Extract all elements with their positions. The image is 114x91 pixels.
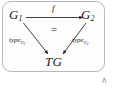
edge-label-f: f [52, 4, 55, 13]
edge-label-type-g1: typeG1 [9, 37, 25, 44]
commutativity-equals-sign: = [51, 24, 57, 35]
diagram-figure: G1 G2 TG f typeG1 typeG2 = ∧ [0, 0, 114, 91]
node-g2-subscript: 2 [90, 14, 94, 23]
edge-label-type-g2-subscript: G2 [84, 40, 89, 45]
node-g1-subscript: 1 [18, 14, 22, 23]
edge-label-type-g2: typeG2 [72, 37, 88, 44]
node-tg: TG [45, 55, 62, 68]
caret-mark-icon: ∧ [101, 76, 108, 85]
node-g2-base: G [81, 7, 90, 22]
node-g2: G2 [81, 8, 94, 21]
edge-label-f-text: f [52, 3, 55, 13]
node-g1-base: G [9, 7, 18, 22]
node-tg-base: TG [45, 54, 62, 69]
edge-label-type-g1-text: type [9, 36, 21, 44]
edge-label-type-g2-text: type [72, 36, 84, 44]
edge-label-type-g1-subscript: G1 [21, 40, 26, 45]
arrow-type-g1 [24, 23, 49, 54]
node-g1: G1 [9, 8, 22, 21]
